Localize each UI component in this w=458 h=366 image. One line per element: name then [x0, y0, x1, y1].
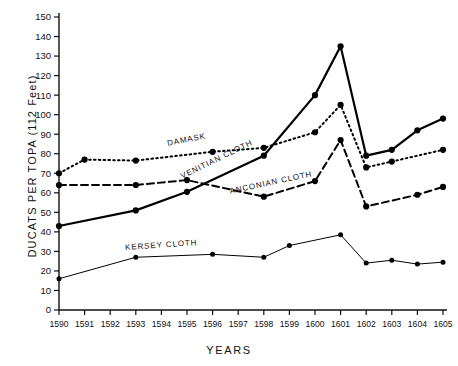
x-axis-tick-label: 1600 [305, 319, 324, 329]
series-data-point [57, 276, 62, 281]
series-data-point [338, 43, 344, 49]
series-data-point [363, 153, 369, 159]
series-data-point [133, 207, 139, 213]
series-data-point [389, 258, 394, 263]
y-axis-title: DUCATS PER TOPA (112 Feet) [26, 46, 38, 286]
series-data-point [56, 170, 62, 176]
series-data-point [133, 182, 139, 188]
x-axis-tick-label: 1605 [433, 319, 452, 329]
chart-axes: 0102030405060708090100110120130140150159… [35, 11, 453, 329]
series-name-label: ANCONIAN CLOTH [229, 169, 313, 195]
line-chart-plot: 0102030405060708090100110120130140150159… [0, 0, 458, 366]
series-data-point [389, 158, 395, 164]
series-data-point [338, 102, 344, 108]
series-data-point [440, 115, 446, 121]
series-line [59, 46, 443, 226]
series-data-point [261, 194, 267, 200]
x-axis-tick-label: 1591 [75, 319, 94, 329]
series-data-point [414, 192, 420, 198]
series-data-point [389, 147, 395, 153]
series-data-point [440, 147, 446, 153]
series-data-point [363, 203, 369, 209]
x-axis-tick-label: 1599 [280, 319, 299, 329]
x-axis-tick-label: 1596 [203, 319, 222, 329]
series-name-label: VENITIAN CLOTH [179, 138, 254, 181]
series-data-point [133, 157, 139, 163]
series-data-point [261, 255, 266, 260]
series-data-point [56, 223, 62, 229]
y-axis-tick-label: 80 [40, 148, 51, 159]
series-data-point [441, 260, 446, 265]
series-data-point [312, 178, 318, 184]
series-data-point [440, 184, 446, 190]
chart-series-labels: DAMASKVENITIAN CLOTHANCONIAN CLOTHKERSEY… [125, 131, 313, 252]
series-data-point [261, 153, 267, 159]
series-data-point [312, 129, 318, 135]
y-axis-tick-label: 40 [40, 226, 51, 237]
series-data-point [133, 255, 138, 260]
x-axis-title: YEARS [0, 344, 458, 356]
series-data-point [363, 164, 369, 170]
y-axis-tick-label: 30 [40, 246, 51, 257]
x-axis-tick-label: 1598 [254, 319, 273, 329]
x-axis-tick-label: 1593 [126, 319, 145, 329]
x-axis-tick-label: 1602 [357, 319, 376, 329]
series-data-point [261, 145, 267, 151]
series-data-point [338, 232, 343, 237]
x-axis-tick-label: 1603 [382, 319, 401, 329]
series-data-point [184, 189, 190, 195]
x-axis-tick-label: 1601 [331, 319, 350, 329]
series-line [59, 105, 443, 173]
y-axis-tick-label: 10 [40, 285, 51, 296]
series-name-label: DAMASK [166, 131, 206, 147]
series-data-point [364, 261, 369, 266]
series-data-point [56, 182, 62, 188]
chart-container: 0102030405060708090100110120130140150159… [0, 0, 458, 366]
x-axis-tick-label: 1594 [152, 319, 171, 329]
series-line [59, 140, 443, 206]
series-data-point [312, 92, 318, 98]
series-name-label: KERSEY CLOTH [125, 238, 198, 252]
y-axis-tick-label: 150 [35, 11, 51, 22]
series-data-point [287, 243, 292, 248]
y-axis-tick-label: 50 [40, 207, 51, 218]
y-axis-tick-label: 70 [40, 168, 51, 179]
series-line [59, 235, 443, 279]
series-data-point [414, 127, 420, 133]
y-axis-tick-label: 110 [36, 90, 51, 101]
series-data-point [415, 262, 420, 267]
series-data-point [82, 156, 88, 162]
series-data-point [338, 137, 344, 143]
y-axis-tick-label: 20 [40, 265, 51, 276]
y-axis-tick-label: 60 [40, 187, 51, 198]
x-axis-tick-label: 1604 [408, 319, 427, 329]
y-axis-tick-label: 140 [35, 31, 51, 42]
x-axis-tick-label: 1590 [49, 319, 68, 329]
y-axis-tick-label: 0 [46, 304, 51, 315]
chart-series-layer [56, 43, 446, 281]
y-axis-tick-label: 90 [40, 129, 51, 140]
x-axis-tick-label: 1592 [101, 319, 120, 329]
x-axis-tick-label: 1595 [177, 319, 196, 329]
series-data-point [210, 149, 216, 155]
x-axis-tick-label: 1597 [229, 319, 248, 329]
series-data-point [210, 252, 215, 257]
